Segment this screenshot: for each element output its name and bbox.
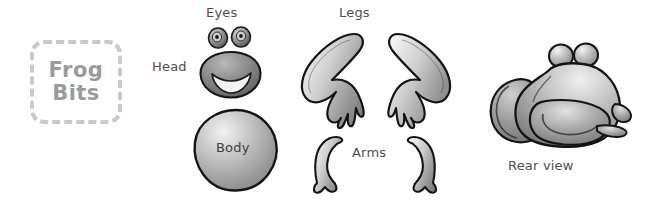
part-head (198, 50, 264, 100)
label-body: Body (216, 140, 250, 155)
part-leg-left (298, 28, 374, 130)
arm-left-shape (314, 137, 342, 193)
rear-folded-leg (530, 100, 610, 145)
part-leg-right (378, 28, 454, 130)
label-arms: Arms (352, 145, 386, 160)
badge-line-2: Bits (52, 82, 100, 105)
part-arm-right (398, 134, 440, 196)
rear-arm-nub (612, 104, 631, 122)
assembled-frog-rear-view (485, 42, 635, 158)
frog-bits-figure: Frog Bits (0, 0, 657, 203)
label-legs: Legs (339, 5, 370, 20)
part-eyes (203, 24, 257, 50)
eye-right-icon (232, 27, 251, 47)
part-arm-left (310, 134, 352, 196)
label-rear-view: Rear view (508, 158, 574, 173)
badge-line-1: Frog (49, 59, 104, 82)
label-eyes: Eyes (206, 5, 237, 20)
label-head: Head (152, 59, 187, 74)
frog-bits-badge: Frog Bits (30, 40, 122, 124)
arm-right-shape (408, 137, 436, 193)
eye-left-icon (209, 28, 228, 48)
